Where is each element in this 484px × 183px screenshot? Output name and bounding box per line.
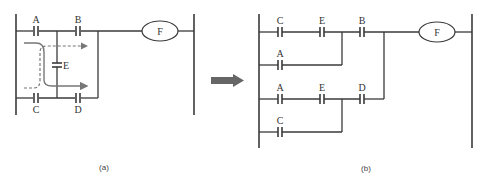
transform-arrow-icon <box>211 74 244 87</box>
label-f: F <box>434 27 440 38</box>
panel-a: A B C D E F <box>16 14 194 172</box>
label-b: B <box>359 15 366 26</box>
contact-a-rung3: A <box>276 82 284 104</box>
label-e: E <box>63 60 69 71</box>
solid-current-path <box>24 43 87 86</box>
contact-e: E <box>52 60 69 71</box>
coil-f: F <box>142 21 178 41</box>
label-c: C <box>277 15 284 26</box>
label-a: A <box>32 14 40 25</box>
contact-d: D <box>74 93 81 115</box>
label-c: C <box>277 115 284 126</box>
label-c: C <box>33 104 40 115</box>
contact-a-rung2: A <box>276 48 284 70</box>
panel-b: C E B A A E D C <box>259 14 472 173</box>
caption-b: (b) <box>361 164 371 173</box>
label-d: D <box>74 104 81 115</box>
contact-e-rung3: E <box>319 82 325 104</box>
caption-a: (a) <box>99 163 109 172</box>
label-a: A <box>276 82 284 93</box>
contact-e-rung1: E <box>319 15 325 37</box>
label-b: B <box>75 14 82 25</box>
label-e: E <box>319 15 325 26</box>
contact-d: D <box>358 82 365 104</box>
coil-f: F <box>419 22 455 42</box>
contact-c-rung1: C <box>277 15 284 37</box>
contact-c: C <box>33 93 40 115</box>
contact-a: A <box>32 14 40 36</box>
label-a: A <box>276 48 284 59</box>
contact-c-rung4: C <box>277 115 284 137</box>
contact-b: B <box>75 14 82 36</box>
label-d: D <box>358 82 365 93</box>
label-e: E <box>319 82 325 93</box>
ladder-diagram: A B C D E F <box>0 0 484 183</box>
contact-b: B <box>359 15 366 37</box>
label-f: F <box>157 26 163 37</box>
